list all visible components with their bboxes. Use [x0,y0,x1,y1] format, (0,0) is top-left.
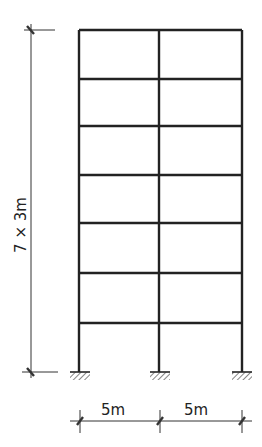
fixed-support-icon [232,372,252,380]
span-dimension [70,410,252,433]
span-label-1: 5m [101,401,125,419]
fixed-support-icon [70,372,90,380]
fixed-supports [70,372,252,380]
fixed-support-icon [150,372,170,380]
height-label: 7 × 3m [12,197,30,253]
span-label-2: 5m [184,401,208,419]
frame-diagram: 7 × 3m 5m 5m [0,0,262,447]
frame [79,30,242,372]
